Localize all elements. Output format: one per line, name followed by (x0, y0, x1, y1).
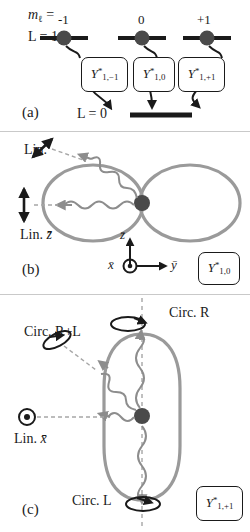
nucleus-dot-c (134, 408, 150, 424)
panel-a-m-value-1: 0 (138, 13, 145, 26)
photon-wave-up (136, 334, 144, 408)
figure-root: mℓ = L = 1 -1 0 +1 Y*1,−1 Y*1,0 Y*1,+1 L… (0, 0, 250, 532)
harmonic-box-panel-b: Y*1,0 (198, 252, 240, 285)
panel-a-L0-label: L = 0 (77, 107, 107, 121)
divider-a-b (0, 131, 250, 132)
panel-c-circ-rl-label: Circ. R+L (24, 325, 81, 339)
panel-b-letter: (b) (22, 262, 40, 277)
circ-r-icon (111, 317, 145, 331)
panel-a-m-label: mℓ = (28, 8, 54, 24)
leader-lines-b (34, 149, 86, 205)
panel-c-circ-l-label: Circ. L (72, 494, 112, 508)
axis-triad-b (124, 239, 167, 273)
harmonic-box-m-plus1: Y*1,+1 (178, 57, 225, 92)
panel-c-circ-r-label: Circ. R (169, 306, 209, 320)
panel-c-lin-x-label: Lin. x̄ (14, 432, 47, 446)
photon-arrow-diagonal (80, 155, 91, 159)
photon-arrow-up (140, 332, 141, 340)
panel-c-letter: (c) (22, 502, 39, 517)
panel-a-L1-label: L = 1 (28, 30, 58, 44)
panel-b-lin-z-label: Lin. z̄ (20, 228, 52, 242)
panel-a-m-value-0: -1 (58, 13, 69, 26)
transition-arrows-lower (92, 90, 198, 107)
photon-wave-horizontal (64, 202, 134, 209)
harmonic-box-panel-c: Y*1,+1 (196, 486, 243, 521)
panel-b-lin-label: Lin. (24, 143, 47, 157)
axis-label-y: ȳ (171, 258, 177, 271)
leader-lines-c (37, 346, 104, 417)
axis-label-z: z̄ (120, 228, 125, 241)
axis-label-x: x̄ (108, 258, 114, 271)
harmonic-box-m-zero: Y*1,0 (133, 57, 175, 92)
circ-l-icon (126, 497, 160, 511)
lin-x-symbol (19, 409, 35, 425)
panel-a-m-value-2: +1 (197, 13, 211, 26)
divider-b-c (0, 294, 250, 295)
panel-a-letter: (a) (22, 105, 39, 120)
photon-wave-diagonal-c (101, 374, 136, 410)
photon-wave-left (108, 413, 134, 421)
harmonic-box-m-minus1: Y*1,−1 (81, 57, 128, 92)
